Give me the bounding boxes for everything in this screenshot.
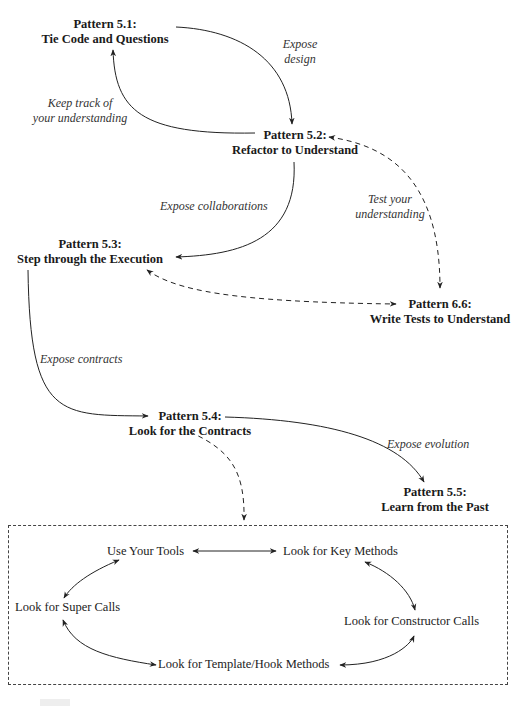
label-expose-collaborations: Expose collaborations [160, 199, 268, 214]
edge-contracts-box [190, 432, 244, 520]
node-pattern-6-6: Pattern 6.6: Write Tests to Understand [360, 297, 520, 327]
label-expose-design: Expose design [270, 37, 330, 67]
label-expose-contracts: Expose contracts [40, 352, 122, 367]
node-pattern-5-1: Pattern 5.1: Tie Code and Questions [40, 17, 170, 47]
edge-expose-contracts [28, 270, 148, 416]
label-expose-evolution: Expose evolution [387, 437, 469, 452]
node-title: Pattern 5.5: [370, 485, 500, 500]
subpattern-constructor-calls: Look for Constructor Calls [344, 614, 479, 629]
subpattern-use-tools: Use Your Tools [107, 544, 184, 559]
node-title: Pattern 5.4: [125, 409, 255, 424]
node-title: Pattern 5.3: [10, 237, 170, 252]
node-pattern-5-5: Pattern 5.5: Learn from the Past [370, 485, 500, 515]
node-pattern-5-2: Pattern 5.2: Refactor to Understand [225, 128, 365, 158]
label-keep-track: Keep track of your understanding [25, 96, 135, 126]
label-test-understanding: Test your understanding [350, 192, 430, 222]
node-pattern-5-4: Pattern 5.4: Look for the Contracts [125, 409, 255, 439]
node-name: Refactor to Understand [225, 143, 365, 158]
node-name: Tie Code and Questions [40, 32, 170, 47]
node-title: Pattern 5.1: [40, 17, 170, 32]
edge-step-write-tests [147, 270, 396, 304]
node-title: Pattern 5.2: [225, 128, 365, 143]
subpattern-template-hook: Look for Template/Hook Methods [158, 657, 329, 672]
node-title: Pattern 6.6: [360, 297, 520, 312]
node-name: Write Tests to Understand [360, 312, 520, 327]
page-tab-mark [40, 699, 70, 706]
subpattern-key-methods: Look for Key Methods [283, 544, 398, 559]
node-name: Look for the Contracts [125, 424, 255, 439]
node-name: Step through the Execution [10, 252, 170, 267]
node-name: Learn from the Past [370, 500, 500, 515]
subpattern-super-calls: Look for Super Calls [15, 600, 120, 615]
node-pattern-5-3: Pattern 5.3: Step through the Execution [10, 237, 170, 267]
